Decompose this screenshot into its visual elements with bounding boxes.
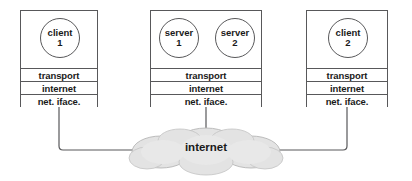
host-box-client-2: client 2 transport internet net. iface.	[306, 10, 388, 107]
app-circle-client-1-line2: 1	[57, 38, 62, 48]
application-area-client-2: client 2	[307, 11, 387, 68]
app-circle-server-1[interactable]: server 1	[159, 18, 199, 58]
layer-row-transport-client-2[interactable]: transport	[307, 68, 387, 81]
layer-row-internet-client-2[interactable]: internet	[307, 81, 387, 94]
internet-cloud-label: internet	[180, 141, 232, 153]
application-area-server: server 1 server 2	[151, 11, 261, 68]
host-box-client-1: client 1 transport internet net. iface.	[20, 10, 98, 107]
app-circle-client-2-line2: 2	[345, 38, 350, 48]
layer-row-net-iface-client-2[interactable]: net. iface.	[307, 94, 387, 107]
app-circle-server-1-line2: 1	[176, 38, 181, 48]
layer-row-net-iface-client-1[interactable]: net. iface.	[21, 94, 97, 107]
app-circle-client-1[interactable]: client 1	[40, 18, 80, 58]
layer-label-transport: transport	[39, 70, 80, 81]
host-box-server: server 1 server 2 transport internet net…	[150, 10, 262, 107]
layer-label-net-iface: net. iface.	[185, 96, 228, 107]
app-circle-server-2-line2: 2	[232, 38, 237, 48]
application-area-client-1: client 1	[21, 11, 97, 68]
layer-label-internet: internet	[330, 83, 364, 94]
layer-row-transport-server[interactable]: transport	[151, 68, 261, 81]
layer-row-internet-client-1[interactable]: internet	[21, 81, 97, 94]
layer-label-net-iface: net. iface.	[38, 96, 81, 107]
layer-label-transport: transport	[327, 70, 368, 81]
layer-row-internet-server[interactable]: internet	[151, 81, 261, 94]
app-circle-client-2[interactable]: client 2	[328, 18, 368, 58]
layer-label-transport: transport	[186, 70, 227, 81]
layer-row-transport-client-1[interactable]: transport	[21, 68, 97, 81]
layer-row-net-iface-server[interactable]: net. iface.	[151, 94, 261, 107]
layer-label-internet: internet	[189, 83, 223, 94]
app-circle-server-2[interactable]: server 2	[215, 18, 255, 58]
network-diagram: client 1 transport internet net. iface. …	[0, 0, 412, 181]
layer-label-internet: internet	[42, 83, 76, 94]
layer-label-net-iface: net. iface.	[326, 96, 369, 107]
